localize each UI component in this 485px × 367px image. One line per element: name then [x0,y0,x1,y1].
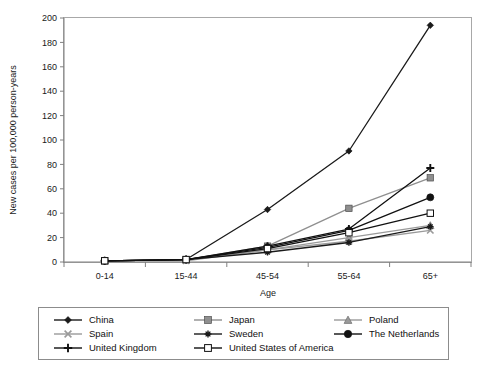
y-tick-label: 180 [42,38,57,48]
y-tick-label: 160 [42,62,57,72]
plot-border [64,18,472,263]
data-point-marker-square [427,175,433,181]
legend-item-label: United States of America [229,342,334,353]
y-tick-label: 100 [42,135,57,145]
y-axis-ticks: 020406080100120140160180200 [42,13,64,267]
legend-item-label: Poland [369,314,399,325]
data-point-marker-hollow-square [183,256,189,262]
y-tick-label: 140 [42,86,57,96]
legend-item-label: Spain [89,328,113,339]
data-point-marker-asterisk [427,223,433,229]
legend-item-label: The Netherlands [369,328,439,339]
y-axis-title: New cases per 100,000 person-years [8,65,18,215]
line-chart: 020406080100120140160180200 0-1415-4445-… [0,0,485,367]
legend-item-label: Sweden [229,328,263,339]
legend-marker-asterisk [205,331,212,338]
y-tick-label: 80 [47,160,57,170]
legend-marker-circle [344,330,351,337]
x-axis-title: Age [260,288,276,298]
data-point-marker-hollow-square [264,245,270,251]
y-tick-label: 60 [47,184,57,194]
x-tick-label: 15-44 [175,271,198,281]
plot-area [64,18,472,263]
chart-legend: ChinaJapanPolandSpainSwedenThe Netherlan… [39,308,449,360]
legend-item-label: China [89,314,115,325]
x-tick-label: 55-64 [337,271,360,281]
figure-container: 020406080100120140160180200 0-1415-4445-… [0,0,485,367]
x-tick-label: 45-54 [256,271,279,281]
legend-marker-hollow-square [205,345,212,352]
y-tick-label: 200 [42,13,57,23]
data-point-marker-hollow-square [427,210,433,216]
x-tick-label: 65+ [423,271,438,281]
data-point-marker-square [346,205,352,211]
legend-marker-square [205,317,212,324]
data-point-marker-hollow-square [346,230,352,236]
x-axis-ticks: 0-1415-4445-5455-6465+ [64,262,471,281]
data-point-marker-circle [427,194,434,201]
x-tick-label: 0-14 [96,271,114,281]
legend-item-label: Japan [229,314,255,325]
y-tick-label: 0 [52,257,57,267]
y-tick-label: 120 [42,111,57,121]
y-tick-label: 40 [47,208,57,218]
data-point-marker-hollow-square [102,258,108,264]
legend-item-label: United Kingdom [89,342,157,353]
y-tick-label: 20 [47,233,57,243]
